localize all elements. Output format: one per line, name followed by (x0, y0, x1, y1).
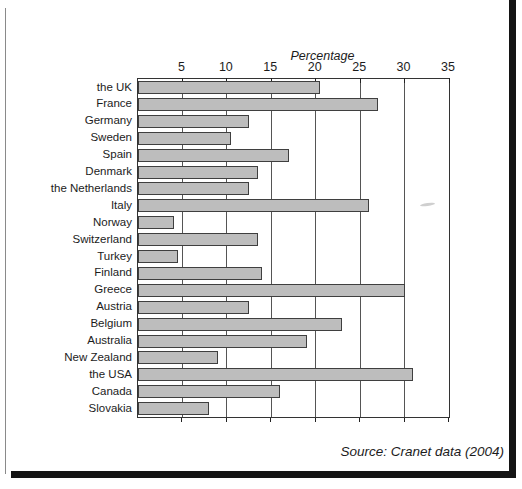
tick-mark-top-35 (449, 78, 450, 83)
figure: Percentage Source: Cranet data (2004) 51… (0, 0, 522, 489)
bar-the-usa (138, 368, 413, 381)
category-label-denmark: Denmark (8, 164, 132, 178)
bar-chart: Percentage Source: Cranet data (2004) 51… (0, 0, 522, 489)
category-label-spain: Spain (8, 147, 132, 161)
category-label-slovakia: Slovakia (8, 401, 132, 415)
x-tick-label-20: 20 (298, 60, 332, 74)
category-label-finland: Finland (8, 265, 132, 279)
category-label-sweden: Sweden (8, 130, 132, 144)
category-label-the-uk: the UK (8, 80, 132, 94)
bar-italy (138, 199, 369, 212)
category-label-the-usa: the USA (8, 367, 132, 381)
bar-spain (138, 149, 289, 162)
gridline-5 (182, 79, 183, 417)
x-tick-label-15: 15 (253, 60, 287, 74)
bar-australia (138, 335, 307, 348)
bar-switzerland (138, 233, 258, 246)
bar-france (138, 98, 378, 111)
tick-mark-bottom-20 (315, 418, 316, 422)
bar-turkey (138, 250, 178, 263)
bar-belgium (138, 318, 342, 331)
tick-mark-bottom-10 (226, 418, 227, 422)
category-label-australia: Australia (8, 333, 132, 347)
bar-germany (138, 115, 249, 128)
gridline-10 (226, 79, 227, 417)
category-label-norway: Norway (8, 215, 132, 229)
gridline-15 (271, 79, 272, 417)
x-tick-label-25: 25 (342, 60, 376, 74)
category-label-france: France (8, 96, 132, 110)
tick-mark-top-25 (360, 78, 361, 83)
gridline-20 (315, 79, 316, 417)
bar-slovakia (138, 402, 209, 415)
plot-area (137, 78, 450, 418)
category-label-canada: Canada (8, 384, 132, 398)
bar-the-uk (138, 81, 320, 94)
x-tick-label-35: 35 (431, 60, 465, 74)
category-label-austria: Austria (8, 299, 132, 313)
source-note: Source: Cranet data (2004) (340, 444, 504, 459)
tick-mark-bottom-5 (181, 418, 182, 422)
bar-new-zealand (138, 351, 218, 364)
bar-finland (138, 267, 262, 280)
category-label-switzerland: Switzerland (8, 232, 132, 246)
category-label-new-zealand: New Zealand (8, 350, 132, 364)
gridline-25 (360, 79, 361, 417)
bar-norway (138, 216, 174, 229)
bar-greece (138, 284, 405, 297)
bar-canada (138, 385, 280, 398)
tick-mark-bottom-15 (270, 418, 271, 422)
gridline-30 (404, 79, 405, 417)
category-label-greece: Greece (8, 282, 132, 296)
bar-denmark (138, 166, 258, 179)
tick-mark-bottom-35 (448, 418, 449, 422)
category-label-turkey: Turkey (8, 249, 132, 263)
bar-sweden (138, 132, 231, 145)
x-tick-label-5: 5 (164, 60, 198, 74)
category-label-belgium: Belgium (8, 316, 132, 330)
category-label-italy: Italy (8, 198, 132, 212)
category-label-germany: Germany (8, 113, 132, 127)
x-tick-label-10: 10 (209, 60, 243, 74)
tick-mark-top-30 (404, 78, 405, 83)
bar-austria (138, 301, 249, 314)
category-label-the-netherlands: the Netherlands (8, 181, 132, 195)
x-tick-label-30: 30 (387, 60, 421, 74)
tick-mark-bottom-25 (359, 418, 360, 422)
tick-mark-bottom-30 (404, 418, 405, 422)
bar-the-netherlands (138, 182, 249, 195)
